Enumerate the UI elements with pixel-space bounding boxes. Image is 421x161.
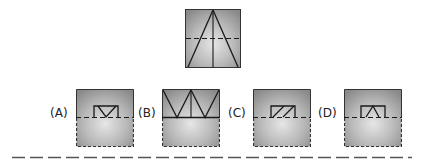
option-b-figure-icon	[162, 89, 220, 147]
option-d[interactable]	[344, 89, 402, 147]
option-c-figure-icon	[253, 89, 311, 147]
option-a-figure-icon	[76, 89, 134, 147]
option-c-label: (C)	[228, 106, 246, 120]
question-figure	[185, 9, 241, 68]
option-d-label: (D)	[318, 106, 337, 120]
option-c[interactable]	[253, 89, 311, 147]
folded-paper-icon	[185, 9, 241, 68]
option-a[interactable]	[76, 89, 134, 147]
option-d-figure-icon	[344, 89, 402, 147]
divider-dashed	[12, 156, 412, 159]
option-b[interactable]	[162, 89, 220, 147]
option-b-label: (B)	[138, 106, 156, 120]
option-a-label: (A)	[50, 106, 68, 120]
